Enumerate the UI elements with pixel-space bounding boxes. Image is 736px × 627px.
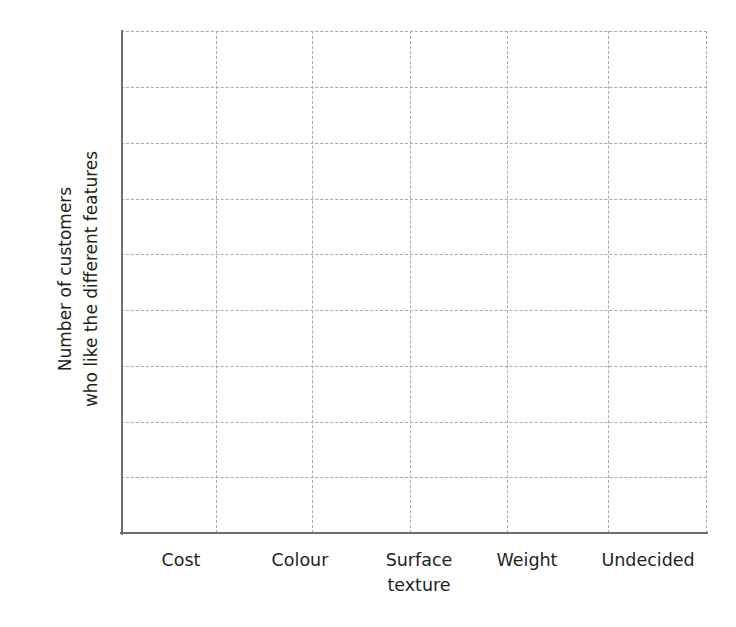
vertical-gridline <box>507 31 508 533</box>
x-tick-label-colour: Colour <box>272 548 329 573</box>
vertical-gridline <box>312 31 313 533</box>
blank-bar-chart-figure: Number of customers who like the differe… <box>0 0 736 627</box>
horizontal-gridline <box>121 477 707 478</box>
x-tick-label-line-2: texture <box>386 573 453 598</box>
x-tick-label-weight: Weight <box>497 548 558 573</box>
x-tick-label-line-1: Colour <box>272 548 329 573</box>
vertical-gridline <box>216 31 217 533</box>
vertical-gridline <box>608 31 609 533</box>
x-tick-label-surface-texture: Surface texture <box>386 548 453 598</box>
horizontal-gridline <box>121 422 707 423</box>
horizontal-gridline <box>121 31 707 32</box>
x-axis-line <box>120 532 708 534</box>
horizontal-gridline <box>121 254 707 255</box>
x-tick-label-cost: Cost <box>162 548 201 573</box>
horizontal-gridline <box>121 199 707 200</box>
x-tick-label-line-1: Cost <box>162 548 201 573</box>
vertical-gridline <box>410 31 411 533</box>
x-tick-label-undecided: Undecided <box>601 548 694 573</box>
y-axis-line <box>121 30 123 535</box>
plot-area <box>121 31 707 533</box>
horizontal-gridline <box>121 310 707 311</box>
vertical-gridline <box>706 31 707 533</box>
horizontal-gridline <box>121 366 707 367</box>
y-axis-title-line-2: who like the different features <box>78 151 104 407</box>
horizontal-gridline <box>121 87 707 88</box>
horizontal-gridline <box>121 143 707 144</box>
x-tick-label-line-1: Weight <box>497 548 558 573</box>
y-axis-title-line-1: Number of customers <box>52 151 78 407</box>
x-tick-label-line-1: Undecided <box>601 548 694 573</box>
x-tick-label-line-1: Surface <box>386 548 453 573</box>
